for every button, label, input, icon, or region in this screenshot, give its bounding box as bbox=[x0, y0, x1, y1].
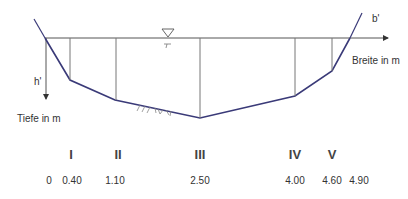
section-label-I: I bbox=[69, 147, 73, 162]
river-cross-section-diagram: h' Tiefe in m b' Breite in m I II III IV… bbox=[0, 0, 408, 199]
horizontal-axis-label: Breite in m bbox=[352, 55, 400, 66]
position-value: 0.40 bbox=[62, 175, 82, 186]
ground-hatching bbox=[137, 105, 171, 116]
position-value: 0 bbox=[46, 175, 52, 186]
position-value: 4.60 bbox=[322, 175, 342, 186]
vertical-axis-label: Tiefe in m bbox=[17, 113, 61, 124]
section-label-IV: IV bbox=[289, 147, 302, 162]
riverbed-profile-line bbox=[45, 38, 350, 118]
right-bank-line bbox=[350, 13, 362, 38]
position-value: 2.50 bbox=[190, 175, 210, 186]
position-value: 1.10 bbox=[105, 175, 125, 186]
section-label-III: III bbox=[195, 147, 206, 162]
vertical-axis-symbol: h' bbox=[34, 76, 42, 87]
position-value: 4.00 bbox=[285, 175, 305, 186]
left-bank-line bbox=[34, 19, 45, 38]
section-label-V: V bbox=[328, 147, 337, 162]
horizontal-axis-symbol: b' bbox=[372, 13, 380, 24]
position-value: 4.90 bbox=[349, 175, 369, 186]
section-label-II: II bbox=[114, 147, 121, 162]
